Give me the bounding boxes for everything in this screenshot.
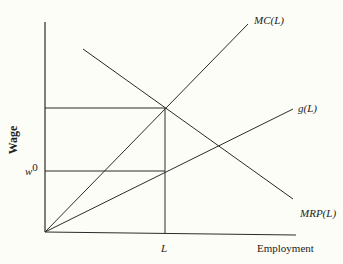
y-axis-label: Wage [6,125,20,154]
mc-label: MC(L) [253,14,284,27]
g-label: g(L) [298,102,317,115]
labor-market-diagram: MC(L) g(L) MRP(L) L w0 Employment Wage [0,0,343,264]
l-tick-label: L [160,242,167,254]
x-axis-label: Employment [257,242,314,254]
x-axis [45,232,296,235]
mrp-curve [83,49,293,199]
mc-curve [45,24,248,232]
w0-tick-label: w0 [25,161,38,177]
mrp-label: MRP(L) [299,207,336,220]
